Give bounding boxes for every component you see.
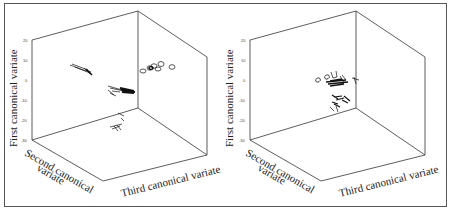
svg-text:0: 0 — [25, 78, 28, 83]
svg-text:-30: -30 — [239, 138, 246, 143]
svg-text:0: 0 — [243, 78, 246, 83]
right-panel: 20 10 0 -10 -20 -30 First canonical vari… — [223, 11, 440, 199]
data-points — [315, 71, 359, 112]
svg-text:20: 20 — [23, 38, 28, 43]
figure-canvas: 20 10 0 -10 -20 -30 First canonical vari… — [0, 0, 453, 215]
svg-text:20: 20 — [241, 38, 246, 43]
data-points — [70, 62, 175, 132]
svg-text:-20: -20 — [239, 118, 246, 123]
z-axis-title: First canonical variate — [223, 49, 235, 147]
y-axis-title: Third canonical variate — [338, 163, 440, 199]
box-floor-back-edges — [250, 108, 425, 155]
z-axis-ticks: 20 10 0 -10 -20 -30 — [239, 38, 246, 143]
svg-text:-10: -10 — [21, 98, 28, 103]
svg-text:10: 10 — [241, 58, 246, 63]
svg-text:10: 10 — [23, 58, 28, 63]
left-panel: 20 10 0 -10 -20 -30 First canonical vari… — [7, 11, 222, 199]
z-axis-title: First canonical variate — [7, 49, 19, 147]
svg-text:-10: -10 — [239, 98, 246, 103]
svg-text:-30: -30 — [21, 138, 28, 143]
y-axis-title: Third canonical variate — [120, 163, 222, 199]
svg-text:-20: -20 — [21, 118, 28, 123]
box-floor-back-edges — [32, 108, 207, 155]
z-axis-ticks: 20 10 0 -10 -20 -30 — [21, 38, 28, 143]
box-top-edges — [32, 11, 207, 155]
x-axis-title-line1: Second canonical — [244, 146, 317, 195]
